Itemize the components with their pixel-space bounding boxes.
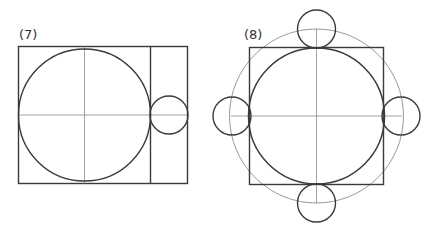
diagram-canvas: (7) (8) [0,0,438,234]
figure-7-label: (7) [19,27,37,42]
figure-7: (7) [19,27,189,184]
figure-8: (8) [213,10,420,222]
figure-8-label: (8) [244,27,262,42]
